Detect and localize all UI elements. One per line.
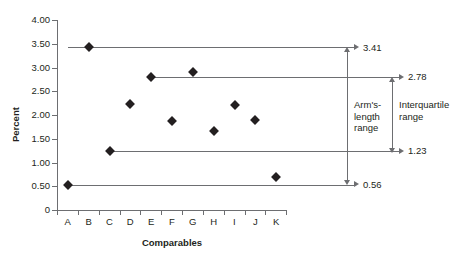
x-tick-label-H: H [203,217,224,227]
x-tick-label-B: B [78,217,99,227]
reference-label-1.23: 1.23 [408,146,427,156]
y-tick-2.00 [52,115,57,116]
y-tick-label-2.50: 2.50 [16,86,50,96]
x-tick-8 [224,210,225,215]
x-tick-label-D: D [120,217,141,227]
x-axis-title: Comparables [112,237,232,248]
reference-line-3.41 [68,47,355,48]
data-point-E [146,72,156,82]
reference-label-3.41: 3.41 [363,43,382,53]
x-axis-line [57,210,286,211]
y-tick-4.00 [52,20,57,21]
scatter-chart: Percent 4.00 3.50 3.00 2.50 2.00 1.50 1.… [0,0,464,259]
x-tick-2 [99,210,100,215]
x-tick-label-C: C [99,217,120,227]
interquartile-range-label-line1: Interquartile [399,99,463,111]
data-point-A [63,180,73,190]
x-tick-6 [182,210,183,215]
interquartile-range-label: Interquartile range [399,99,463,122]
x-tick-0 [57,210,58,215]
data-point-B [84,42,94,52]
data-point-J [250,115,260,125]
arrow-right-3.41-icon [354,44,359,50]
arrow-down-interquartile-icon [389,148,395,153]
arms-length-range-label-line1: Arm's- [354,99,394,111]
x-tick-label-J: J [245,217,266,227]
x-tick-1 [78,210,79,215]
y-tick-label-1.50: 1.50 [16,134,50,144]
x-tick-9 [245,210,246,215]
arrow-right-1.23-icon [399,148,404,154]
interquartile-range-line [392,79,393,151]
data-point-I [230,100,240,110]
arms-length-range-label-line2: length [354,111,394,123]
y-axis-line [57,20,58,211]
reference-label-2.78: 2.78 [408,72,427,82]
y-tick-label-0.50: 0.50 [16,181,50,191]
data-point-H [209,126,219,136]
data-point-K [271,172,281,182]
x-tick-label-K: K [266,217,287,227]
y-tick-label-3.00: 3.00 [16,63,50,73]
y-tick-1.50 [52,139,57,140]
reference-line-2.78 [152,77,400,78]
y-tick-3.00 [52,68,57,69]
data-point-G [188,67,198,77]
x-tick-11 [286,210,287,215]
y-tick-label-2.00: 2.00 [16,110,50,120]
data-point-C [105,146,115,156]
reference-label-0.56: 0.56 [363,180,382,190]
y-tick-1.00 [52,163,57,164]
x-tick-3 [120,210,121,215]
reference-line-0.56 [68,185,355,186]
y-tick-label-0: 0 [16,205,50,215]
arrow-right-0.56-icon [354,181,359,187]
reference-line-1.23 [110,151,400,152]
x-tick-5 [161,210,162,215]
arms-length-range-label: Arm's- length range [354,99,394,134]
arms-length-range-line [347,49,348,183]
arms-length-range-label-line3: range [354,122,394,134]
y-tick-3.50 [52,44,57,45]
y-tick-2.50 [52,91,57,92]
x-tick-label-A: A [57,217,78,227]
arrow-up-interquartile-icon [389,77,395,82]
arrow-down-arms-length-icon [344,180,350,185]
arrow-up-arms-length-icon [344,47,350,52]
x-tick-label-F: F [162,217,183,227]
x-tick-7 [203,210,204,215]
y-tick-label-4.00: 4.00 [16,15,50,25]
data-point-D [125,99,135,109]
interquartile-range-label-line2: range [399,111,463,123]
data-point-F [167,116,177,126]
x-tick-label-E: E [141,217,162,227]
x-tick-4 [140,210,141,215]
arrow-right-2.78-icon [399,74,404,80]
y-tick-label-3.50: 3.50 [16,39,50,49]
x-tick-label-I: I [224,217,245,227]
y-tick-0.50 [52,186,57,187]
x-tick-10 [265,210,266,215]
x-tick-label-G: G [182,217,203,227]
y-tick-label-1.00: 1.00 [16,158,50,168]
